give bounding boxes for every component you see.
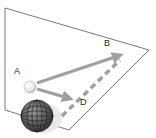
label-b: B <box>104 38 110 48</box>
label-a: A <box>14 66 20 76</box>
diagram-canvas: A B D <box>0 0 156 138</box>
sphere-a <box>24 81 36 93</box>
label-d: D <box>80 97 87 107</box>
globe-icon <box>21 100 53 132</box>
